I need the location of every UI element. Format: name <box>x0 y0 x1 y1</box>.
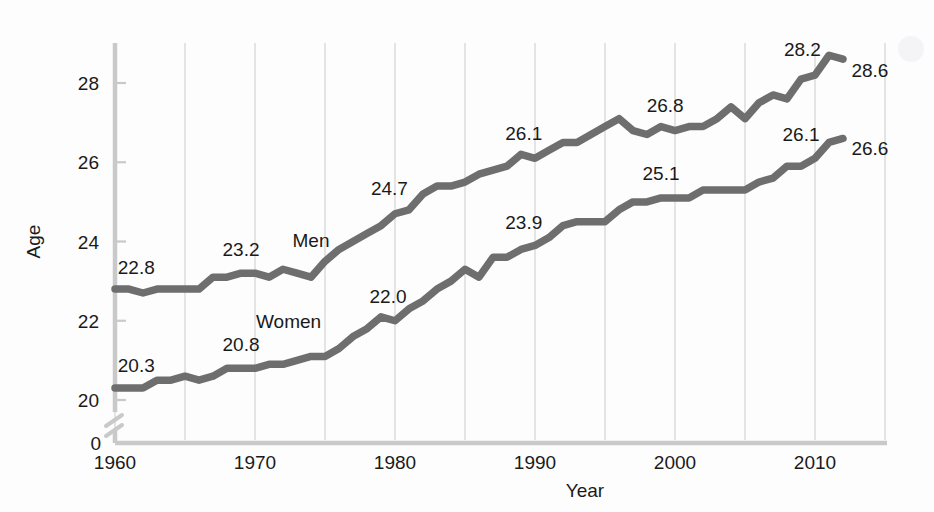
data-point-label: 23.9 <box>505 212 542 233</box>
y-axis-title: Age <box>23 225 44 259</box>
y-tick-label: 20 <box>78 390 99 411</box>
series-label-women: Women <box>256 311 321 332</box>
data-point-label: 23.2 <box>223 239 260 260</box>
data-point-label: 28.6 <box>851 60 888 81</box>
y-tick-label: 24 <box>78 232 100 253</box>
scan-artifact-smudge <box>898 36 924 62</box>
data-point-label: 28.2 <box>784 39 821 60</box>
x-tick-label: 1990 <box>514 452 556 473</box>
y-axis-break-marker <box>106 415 122 436</box>
series-label-men: Men <box>293 230 330 251</box>
x-tick-label: 2000 <box>654 452 696 473</box>
data-point-label: 26.8 <box>647 95 684 116</box>
y-tick-label-0: 0 <box>90 433 101 454</box>
data-point-label: 26.1 <box>505 123 542 144</box>
data-point-label: 20.8 <box>223 334 260 355</box>
line-chart-canvas: 02022242628196019701980199020002010AgeYe… <box>0 0 934 512</box>
x-tick-label: 1970 <box>234 452 276 473</box>
data-point-label: 22.8 <box>118 257 155 278</box>
chart-figure: 02022242628196019701980199020002010AgeYe… <box>0 0 934 512</box>
data-point-label: 25.1 <box>643 163 680 184</box>
x-tick-label: 1960 <box>94 452 136 473</box>
x-tick-label: 2010 <box>794 452 836 473</box>
data-point-label: 26.6 <box>851 138 888 159</box>
data-point-label: 22.0 <box>370 286 407 307</box>
data-point-label: 24.7 <box>371 178 408 199</box>
data-point-label: 20.3 <box>118 355 155 376</box>
data-point-label: 26.1 <box>783 124 820 145</box>
y-tick-label: 22 <box>78 311 99 332</box>
x-axis-title: Year <box>566 480 605 501</box>
y-tick-label: 28 <box>78 73 99 94</box>
x-tick-label: 1980 <box>374 452 416 473</box>
y-tick-label: 26 <box>78 152 99 173</box>
